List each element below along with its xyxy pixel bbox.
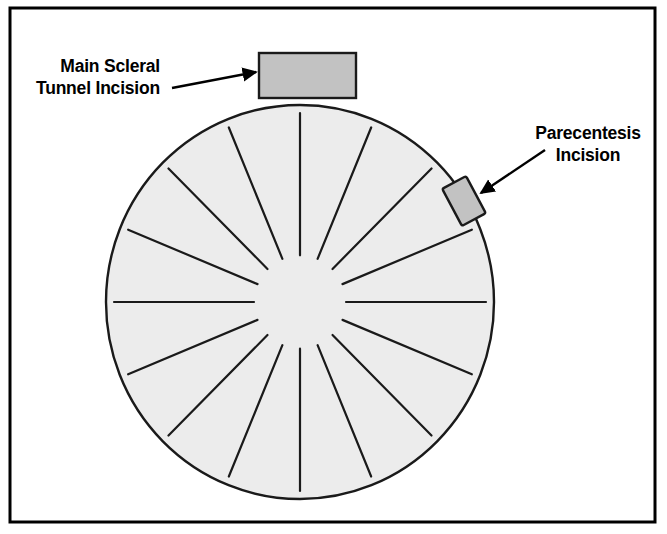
incision-diagram: Main Scleral Tunnel Incision Parecentesi… — [0, 0, 667, 534]
figure-root: Main Scleral Tunnel Incision Parecentesi… — [0, 0, 667, 534]
parecentesis-incision-label-line2: Incision — [556, 145, 621, 165]
main-scleral-tunnel-incision-marker[interactable] — [259, 53, 356, 98]
main-scleral-tunnel-incision-label-line1: Main Scleral — [60, 56, 160, 76]
parecentesis-incision-label-line1: Parecentesis — [535, 123, 641, 143]
main-scleral-tunnel-incision-label-line2: Tunnel Incision — [36, 78, 160, 98]
